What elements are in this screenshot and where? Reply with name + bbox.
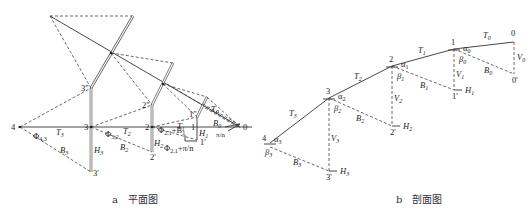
label-alpha-0: α0: [463, 43, 470, 54]
label-beta-2: β2: [333, 103, 341, 114]
label-beta-0: β0: [458, 54, 466, 65]
label-point-0: 0: [243, 122, 247, 132]
diagram-canvas: 4 3 2 1 0 3" 3' 2" 2' 1" 1' T3 T2 T1 T0 …: [0, 0, 532, 213]
label-b-point-3: 3: [326, 86, 330, 96]
label-b-b1: B1: [420, 80, 428, 91]
label-t0: T0: [211, 104, 219, 115]
label-b-h3: H3: [339, 166, 349, 177]
label-b-h1: H1: [464, 85, 474, 96]
label-phi-3-2: Φ3,2: [105, 129, 119, 140]
caption-b-text: 剖面图: [412, 193, 442, 205]
label-b-b3: B3: [293, 157, 301, 168]
point-3: [90, 126, 92, 128]
label-pi-over-n: π/n: [216, 131, 225, 139]
label-beta-3: β3: [264, 147, 272, 158]
label-b-point-1p: 1': [452, 91, 458, 101]
label-b-t2: T2: [354, 71, 362, 82]
label-t3: T3: [56, 127, 64, 138]
label-h2: H2: [153, 138, 163, 149]
label-point-2pp: 2": [142, 100, 150, 110]
point-4: [19, 126, 21, 128]
label-alpha-1: α1: [401, 59, 408, 70]
caption-a-letter: a: [112, 194, 118, 205]
label-point-1pp: 1": [189, 109, 197, 119]
label-point-2: 2: [145, 122, 149, 132]
label-b3: B3: [60, 145, 68, 156]
panel-a-plan-view: 4 3 2 1 0 3" 3' 2" 2' 1" 1' T3 T2 T1 T0 …: [11, 16, 252, 205]
label-b0: B0: [213, 118, 221, 129]
label-b-h2: H2: [402, 121, 412, 132]
label-v0: V0: [517, 52, 525, 63]
label-alpha-2: α2: [338, 91, 345, 102]
label-point-3pp: 3": [81, 83, 89, 93]
label-v2: V2: [394, 93, 402, 104]
point-2: [151, 126, 153, 128]
label-phi-4-3: Φ4,3: [33, 131, 47, 142]
label-point-4: 4: [11, 122, 16, 132]
label-point-1: 1: [191, 122, 195, 132]
label-point-3p: 3': [93, 168, 99, 178]
label-b-point-4: 4: [262, 133, 267, 143]
label-h1: H1: [198, 128, 208, 139]
label-b-t3: T3: [289, 108, 297, 119]
caption-a-text: 平面图: [128, 194, 158, 205]
label-b-point-0p: 0': [512, 75, 518, 85]
label-t2: T2: [123, 126, 131, 137]
label-b-t1: T1: [418, 45, 426, 56]
label-b-point-3p: 3': [326, 172, 332, 182]
label-v3: V3: [331, 133, 339, 144]
label-b-point-2: 2: [389, 54, 393, 64]
label-h3: H3: [93, 145, 103, 156]
label-v1: V1: [456, 69, 464, 80]
label-phi-2-1-pin: Φ2,1+π/n: [164, 143, 194, 154]
caption-b-letter: b: [396, 194, 402, 205]
label-b-point-1: 1: [451, 37, 455, 47]
panel-b-profile-view: 0 1 2 3 4 0' 1' 2' 3' T0 T1 T2 T3 α0 α1 …: [262, 28, 525, 205]
label-b-b0: B0: [484, 65, 492, 76]
label-point-2p: 2': [150, 152, 156, 162]
label-b-b2: B2: [356, 113, 364, 124]
label-b-point-0: 0: [511, 28, 515, 38]
label-point-3: 3: [84, 122, 88, 132]
label-b2: B2: [120, 142, 128, 153]
label-b-t0: T0: [483, 30, 491, 41]
label-phi-2-1-b1: Φ2,1+B1: [158, 125, 185, 136]
label-beta-1: β1: [396, 71, 404, 82]
label-b-point-2p: 2': [390, 127, 396, 137]
